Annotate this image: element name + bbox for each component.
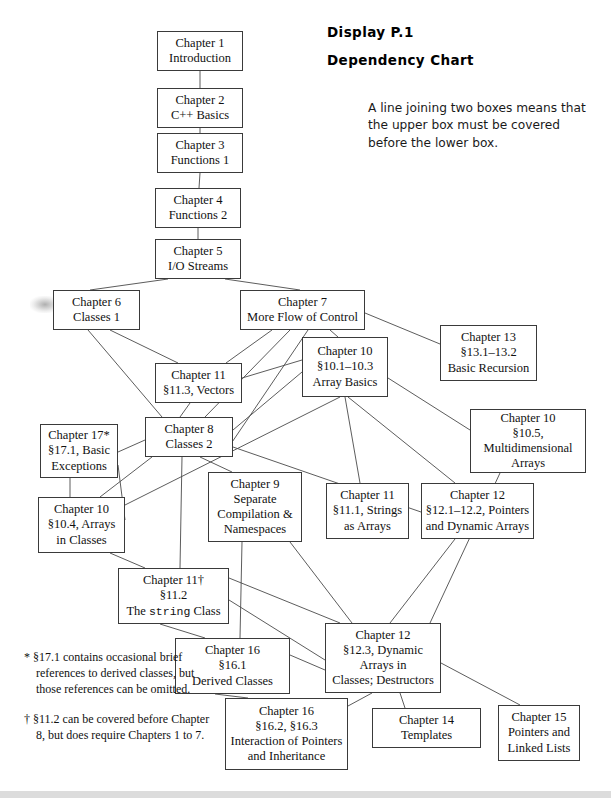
chart-title: Dependency Chart (327, 52, 587, 68)
chart-node-ch14[interactable]: Chapter 14Templates (372, 708, 481, 748)
edge-ch5-ch6 (90, 279, 168, 290)
chart-node-ch10c[interactable]: Chapter 10§10.4, Arraysin Classes (38, 497, 125, 553)
chart-node-line: Chapter 11† (143, 573, 204, 588)
chart-node-line: Chapter 10 (54, 502, 109, 517)
chart-node-ch11v[interactable]: Chapter 11§11.3, Vectors (155, 363, 242, 403)
chart-node-line: §13.1–13.2 (460, 345, 516, 360)
chart-node-line: Functions 1 (171, 153, 230, 168)
chart-node-line: Array Basics (313, 375, 378, 390)
display-number: Display P.1 (327, 24, 587, 40)
chart-node-line: §10.4, Arrays (48, 517, 116, 532)
chart-node-line: Namespaces (224, 522, 286, 537)
chart-node-line: §17.1, Basic (48, 443, 110, 458)
chart-node-line: Multidimensional (484, 441, 573, 456)
footnote-star: * §17.1 contains occasional brief refere… (24, 650, 214, 697)
chart-node-ch12d[interactable]: Chapter 12§12.3, DynamicArrays inClasses… (325, 623, 441, 693)
chart-node-line: §12.1–12.2, Pointers (426, 503, 529, 518)
chart-node-line: Chapter 11 (171, 368, 226, 383)
chart-node-ch10a[interactable]: Chapter 10§10.1–10.3Array Basics (302, 337, 388, 397)
page-bottom-rule (0, 791, 611, 798)
chart-node-line: More Flow of Control (247, 310, 358, 325)
chart-node-line: §16.1 (218, 658, 246, 673)
chart-node-ch5[interactable]: Chapter 5I/O Streams (155, 239, 241, 279)
chart-node-line: §11.1, Strings (333, 503, 402, 518)
chart-node-line: §11.2 (160, 588, 188, 603)
edge-ch11str-ch12d (229, 578, 340, 623)
chart-node-line: Chapter 10 (500, 411, 555, 426)
chart-node-ch2[interactable]: Chapter 2C++ Basics (157, 88, 243, 128)
chart-title-block: Display P.1 Dependency Chart (327, 24, 587, 68)
edge-ch10a-ch10m (388, 378, 470, 430)
chart-node-line: Chapter 13 (461, 330, 516, 345)
code-literal: string (149, 605, 190, 618)
chart-node-line: §11.3, Vectors (163, 383, 234, 398)
chart-node-line: Chapter 15 (511, 710, 566, 725)
chart-node-line: Functions 2 (169, 208, 228, 223)
chart-node-ch17[interactable]: Chapter 17*§17.1, BasicExceptions (40, 424, 118, 478)
chart-node-line: Interaction of Pointers (231, 734, 343, 749)
edge-ch12d-ch16i (348, 693, 372, 706)
dependency-chart-page: Display P.1 Dependency Chart A line join… (0, 0, 611, 800)
chart-node-ch11str[interactable]: Chapter 11†§11.2The string Class (118, 568, 229, 624)
chart-node-line: I/O Streams (168, 259, 228, 274)
chart-node-ch15[interactable]: Chapter 15Pointers andLinked Lists (498, 705, 580, 761)
chart-node-ch3[interactable]: Chapter 3Functions 1 (157, 133, 243, 173)
edge-ch10a-ch12p (348, 397, 455, 483)
chart-node-line: Chapter 9 (231, 477, 280, 492)
footnote-dagger: † §11.2 can be covered before Chapter 8,… (24, 712, 214, 744)
chart-node-ch8[interactable]: Chapter 8Classes 2 (145, 417, 233, 457)
chart-node-ch1[interactable]: Chapter 1Introduction (157, 31, 243, 71)
edge-ch5-ch7 (225, 279, 300, 290)
legend-note: A line joining two boxes means that the … (368, 100, 593, 152)
chart-node-line: Chapter 5 (174, 244, 223, 259)
chart-node-line: Separate (233, 492, 276, 507)
chart-node-line: §10.5, (512, 426, 543, 441)
chart-node-line: The string Class (126, 604, 220, 619)
chart-node-line: Chapter 1 (176, 36, 225, 51)
chart-node-line: and Inheritance (248, 749, 325, 764)
chart-node-line: Exceptions (51, 459, 107, 474)
edge-ch10c-ch11str (110, 553, 145, 568)
chart-node-line: Basic Recursion (448, 361, 530, 376)
chart-node-line: §16.2, §16.3 (255, 719, 318, 734)
chart-node-ch9[interactable]: Chapter 9SeparateCompilation &Namespaces (208, 472, 302, 542)
chart-node-ch11s[interactable]: Chapter 11§11.1, Stringsas Arrays (326, 483, 409, 539)
chart-node-ch7[interactable]: Chapter 7More Flow of Control (240, 290, 365, 330)
chart-node-line: Chapter 2 (176, 93, 225, 108)
footnote-dagger-text: † §11.2 can be covered before Chapter 8,… (24, 712, 214, 744)
chart-node-line: §10.1–10.3 (317, 359, 373, 374)
chart-node-line: Compilation & (217, 507, 292, 522)
edge-ch3-ch4 (199, 173, 200, 188)
edge-ch6-ch11v (110, 330, 178, 363)
edge-ch8-ch17 (118, 440, 145, 452)
edge-ch11str-ch16d (160, 624, 205, 638)
chart-node-line: Arrays (511, 456, 545, 471)
edge-ch7-ch11v (226, 330, 272, 363)
edge-ch6-ch8 (88, 330, 162, 417)
edge-ch7-ch10a (330, 330, 338, 337)
chart-node-ch12p[interactable]: Chapter 12§12.1–12.2, Pointersand Dynami… (421, 483, 534, 539)
edge-ch9-ch16d (240, 542, 242, 638)
chart-node-line: Classes 2 (166, 437, 213, 452)
chart-node-ch16i[interactable]: Chapter 16§16.2, §16.3Interaction of Poi… (225, 698, 348, 770)
edge-ch12d-ch15 (441, 663, 520, 705)
chart-node-ch4[interactable]: Chapter 4Functions 2 (155, 188, 241, 228)
edge-ch10a-ch8 (233, 372, 302, 430)
chart-node-line: C++ Basics (171, 108, 229, 123)
chart-node-ch13[interactable]: Chapter 13§13.1–13.2Basic Recursion (440, 325, 537, 381)
footnote-star-text: * §17.1 contains occasional brief refere… (24, 650, 214, 697)
chart-node-line: Templates (401, 728, 452, 743)
chart-node-ch10m[interactable]: Chapter 10§10.5,MultidimensionalArrays (470, 409, 586, 473)
chart-node-line: Linked Lists (508, 741, 571, 756)
chart-node-line: §12.3, Dynamic (343, 643, 423, 658)
chart-node-line: Chapter 3 (176, 138, 225, 153)
chart-node-line: Chapter 17* (48, 428, 109, 443)
chart-node-line: Classes 1 (73, 310, 120, 325)
edge-ch11v-ch10a (242, 360, 302, 378)
chart-node-ch6[interactable]: Chapter 6Classes 1 (53, 290, 140, 330)
chart-node-line: Chapter 11 (340, 488, 395, 503)
chart-node-line: Chapter 6 (72, 295, 121, 310)
edge-ch10a-ch11s (345, 397, 360, 483)
edge-ch16d-ch12d (290, 655, 325, 670)
edge-ch8-ch11str (180, 457, 182, 568)
